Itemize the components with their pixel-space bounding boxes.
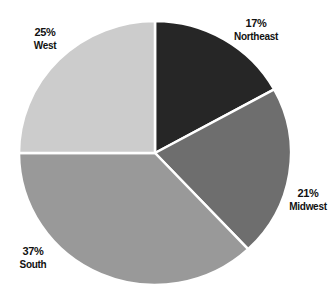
label-northeast-name: Northeast (234, 30, 278, 43)
label-northeast-percent: 17% (234, 17, 278, 30)
label-west-percent: 25% (34, 26, 57, 39)
label-midwest: 21% Midwest (289, 187, 326, 213)
label-south-percent: 37% (20, 245, 47, 258)
label-west: 25% West (34, 26, 57, 52)
label-midwest-percent: 21% (289, 187, 326, 200)
label-northeast: 17% Northeast (234, 17, 278, 43)
label-midwest-name: Midwest (289, 200, 326, 213)
label-south: 37% South (20, 245, 47, 271)
label-south-name: South (20, 258, 47, 271)
label-west-name: West (34, 39, 57, 52)
pie-slices (19, 21, 291, 285)
